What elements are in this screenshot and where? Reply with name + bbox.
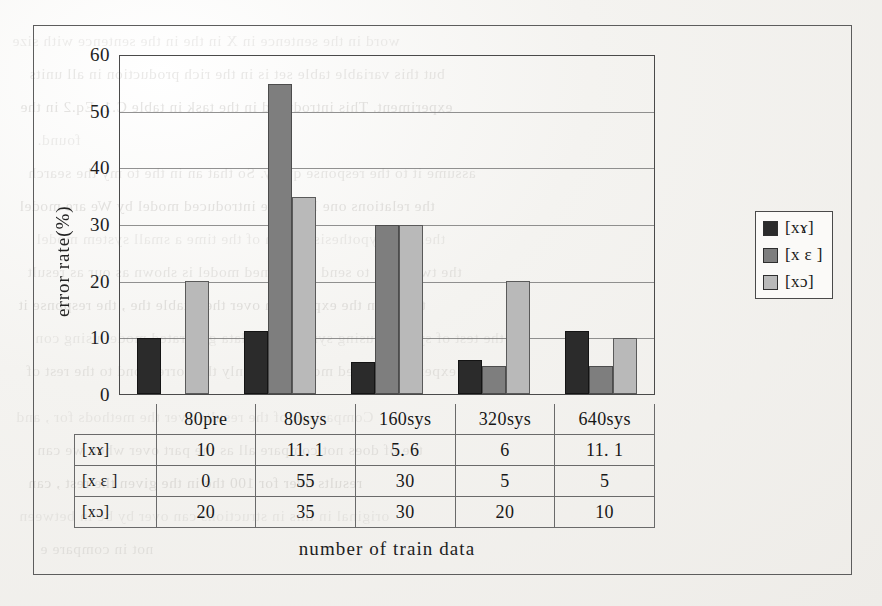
table-cell: 11. 1 — [555, 435, 655, 466]
table-cell: 5 — [455, 466, 555, 497]
table-cell: 5. 6 — [355, 435, 455, 466]
table-cell: 20 — [156, 497, 256, 528]
table-cell: 20 — [455, 497, 555, 528]
legend-item-label: [xɔ] — [785, 272, 814, 292]
legend-swatch-icon — [763, 248, 778, 263]
bar — [292, 197, 316, 394]
table-cell: 10 — [555, 497, 655, 528]
table-cell: 30 — [355, 497, 455, 528]
table-cell: 11. 1 — [256, 435, 356, 466]
legend-item: [x ɛ ] — [763, 245, 823, 265]
table-column-header: 160sys — [355, 404, 455, 435]
bar — [268, 84, 292, 394]
table-header-row: 80pre80sys160sys320sys640sys — [75, 404, 655, 435]
table-column-header: 80pre — [156, 404, 256, 435]
bar — [565, 331, 589, 394]
bar — [589, 366, 613, 394]
bar — [351, 362, 375, 394]
bar — [506, 281, 530, 394]
bar — [399, 225, 423, 394]
bar — [458, 360, 482, 394]
table-column-header: 320sys — [455, 404, 555, 435]
bar — [185, 281, 209, 394]
table-row-header: [xɔ] — [75, 497, 157, 528]
y-tick-label: 40 — [90, 157, 110, 179]
bar-group — [120, 56, 227, 394]
bar-group — [227, 56, 334, 394]
table-column-header: 640sys — [555, 404, 655, 435]
bar — [613, 338, 637, 394]
table-cell: 30 — [355, 466, 455, 497]
bar-group — [440, 56, 547, 394]
y-tick-label: 30 — [90, 214, 110, 236]
plot-area — [119, 55, 655, 395]
bar — [482, 366, 506, 394]
table-row-header: [x ɛ ] — [75, 466, 157, 497]
legend-item-label: [xɤ] — [785, 218, 814, 238]
table-row: [x ɛ ]0553055 — [75, 466, 655, 497]
bar — [244, 331, 268, 394]
bar — [137, 338, 161, 394]
table-column-header: 80sys — [256, 404, 356, 435]
data-table: 80pre80sys160sys320sys640sys [xɤ]1011. 1… — [74, 404, 655, 528]
y-tick-label: 60 — [90, 44, 110, 66]
y-tick-label: 10 — [90, 327, 110, 349]
table-cell: 6 — [455, 435, 555, 466]
chart-legend: [xɤ][x ɛ ][xɔ] — [755, 211, 833, 299]
table-cell: 5 — [555, 466, 655, 497]
table-row: [xɤ]1011. 15. 6611. 1 — [75, 435, 655, 466]
table-corner-cell — [75, 404, 157, 435]
y-tick-label: 50 — [90, 101, 110, 123]
table-row: [xɔ]2035302010 — [75, 497, 655, 528]
legend-item: [xɔ] — [763, 272, 823, 292]
x-axis-title: number of train data — [119, 538, 655, 560]
table-cell: 35 — [256, 497, 356, 528]
table-cell: 55 — [256, 466, 356, 497]
y-tick-label: 20 — [90, 271, 110, 293]
y-tick-label: 0 — [100, 384, 110, 406]
plot-wrapper: error rate(%) 0102030405060 [xɤ][x ɛ ][x… — [34, 26, 851, 574]
table-body: [xɤ]1011. 15. 6611. 1[x ɛ ]0553055[xɔ]20… — [75, 435, 655, 528]
bar-series-container — [120, 56, 654, 394]
table-cell: 10 — [156, 435, 256, 466]
legend-swatch-icon — [763, 275, 778, 290]
bar-group — [547, 56, 654, 394]
bar — [375, 225, 399, 394]
legend-swatch-icon — [763, 221, 778, 236]
table-row-header: [xɤ] — [75, 435, 157, 466]
legend-item: [xɤ] — [763, 218, 823, 238]
table-cell: 0 — [156, 466, 256, 497]
y-axis-tick-labels: 0102030405060 — [72, 55, 114, 395]
legend-item-label: [x ɛ ] — [785, 245, 823, 265]
y-axis-title: error rate(%) — [52, 146, 74, 376]
table-header: 80pre80sys160sys320sys640sys — [75, 404, 655, 435]
bar-group — [334, 56, 441, 394]
figure-frame: error rate(%) 0102030405060 [xɤ][x ɛ ][x… — [33, 25, 852, 575]
